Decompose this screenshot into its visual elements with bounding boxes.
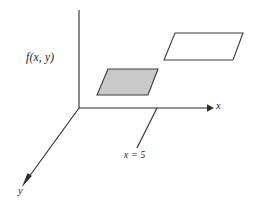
open-plane xyxy=(164,33,243,60)
shaded-plane xyxy=(97,69,158,95)
figure-canvas: f(x, y) x y x = 5 xyxy=(0,0,256,205)
x-equals-5-label: x = 5 xyxy=(124,151,146,161)
y-axis-arrow-icon xyxy=(22,173,32,187)
y-axis-line xyxy=(26,108,79,181)
y-axis-label: y xyxy=(18,186,23,197)
x-axis-label: x xyxy=(216,101,221,112)
vertical-axis-label: f(x, y) xyxy=(26,52,54,64)
x-axis-arrow-icon xyxy=(207,104,214,112)
x-equals-5-leader-line xyxy=(137,108,157,148)
